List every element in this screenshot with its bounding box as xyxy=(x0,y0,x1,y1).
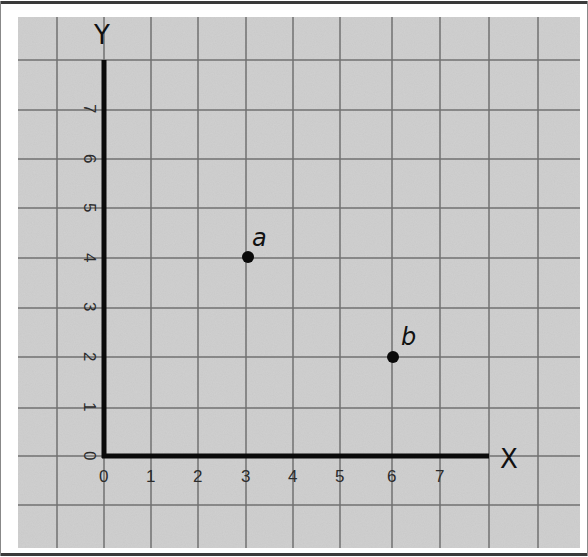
x-tick-2: 2 xyxy=(193,467,202,486)
x-tick-6: 6 xyxy=(387,467,396,486)
y-tick-7: 7 xyxy=(80,104,99,113)
x-tick-7: 7 xyxy=(435,467,444,486)
x-tick-3: 3 xyxy=(241,467,250,486)
y-tick-1: 1 xyxy=(80,402,99,411)
point-b-marker xyxy=(387,351,399,363)
y-tick-3: 3 xyxy=(80,302,99,311)
point-b-label: b xyxy=(401,323,416,351)
y-tick-2: 2 xyxy=(80,352,99,361)
point-a-marker xyxy=(242,251,254,263)
point-a-label: a xyxy=(252,224,267,252)
x-axis-name: X xyxy=(500,444,518,474)
x-tick-1: 1 xyxy=(146,467,155,486)
x-tick-4: 4 xyxy=(288,467,297,486)
y-tick-4: 4 xyxy=(80,253,99,262)
x-tick-5: 5 xyxy=(335,467,344,486)
y-tick-5: 5 xyxy=(80,203,99,212)
x-tick-0: 0 xyxy=(99,467,108,486)
y-tick-0: 0 xyxy=(80,451,99,460)
coordinate-grid-chart: Y X 0 1 2 3 4 5 6 7 0 1 2 3 4 5 6 7 a b xyxy=(0,0,588,557)
y-tick-6: 6 xyxy=(80,154,99,163)
y-axis-name: Y xyxy=(93,20,110,50)
